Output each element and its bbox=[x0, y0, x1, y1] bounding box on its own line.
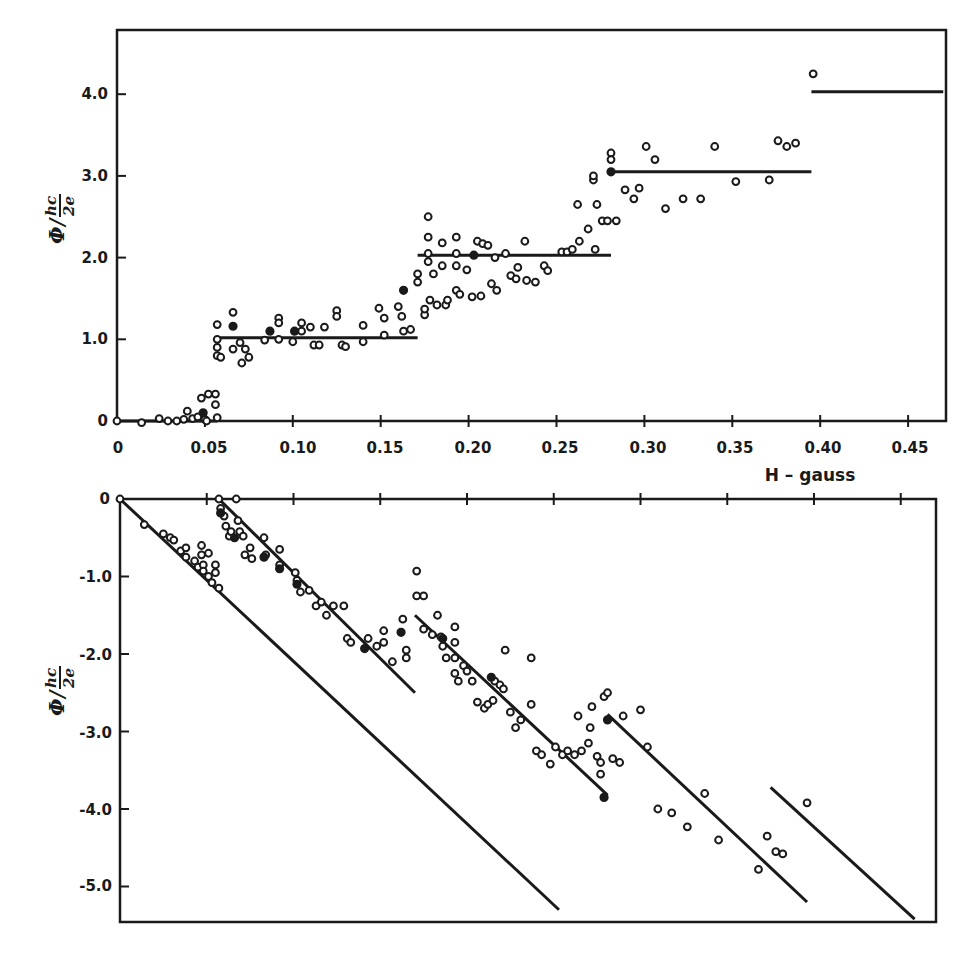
filled-data-point bbox=[397, 629, 404, 636]
open-data-point bbox=[453, 234, 460, 241]
open-data-point bbox=[711, 143, 718, 150]
open-data-point bbox=[564, 747, 571, 754]
open-data-point bbox=[514, 264, 521, 271]
open-data-point bbox=[292, 569, 299, 576]
filled-data-point bbox=[439, 635, 446, 642]
fraction-numerator: hc bbox=[42, 196, 60, 216]
open-data-point bbox=[575, 713, 582, 720]
open-data-point bbox=[585, 226, 592, 233]
open-data-point bbox=[365, 635, 372, 642]
open-data-point bbox=[544, 267, 551, 274]
open-data-point bbox=[810, 70, 817, 77]
open-data-point bbox=[214, 336, 221, 343]
open-data-point bbox=[792, 140, 799, 147]
open-data-point bbox=[492, 254, 499, 261]
open-data-point bbox=[247, 544, 254, 551]
open-data-point bbox=[413, 568, 420, 575]
open-data-point bbox=[237, 339, 244, 346]
x-tick-label: 0.40 bbox=[804, 439, 841, 457]
open-data-point bbox=[425, 234, 432, 241]
x-tick-label: 0.05 bbox=[190, 439, 227, 457]
open-data-point bbox=[340, 603, 347, 610]
y-tick-label: -4.0 bbox=[79, 801, 112, 819]
open-data-point bbox=[170, 537, 177, 544]
filled-data-point bbox=[276, 565, 283, 572]
x-axis-title: H – gauss bbox=[765, 465, 856, 485]
open-data-point bbox=[217, 354, 224, 361]
fit-line bbox=[771, 787, 915, 919]
open-data-point bbox=[165, 418, 172, 425]
open-data-point bbox=[680, 195, 687, 202]
y-tick-label: 0 bbox=[100, 490, 110, 508]
open-data-point bbox=[395, 303, 402, 310]
open-data-point bbox=[275, 320, 282, 327]
open-data-point bbox=[205, 550, 212, 557]
open-data-point bbox=[715, 837, 722, 844]
open-data-point bbox=[585, 740, 592, 747]
open-data-point bbox=[609, 755, 616, 762]
filled-data-point bbox=[488, 674, 495, 681]
open-data-point bbox=[198, 395, 205, 402]
open-data-point bbox=[214, 414, 221, 421]
open-data-point bbox=[261, 337, 268, 344]
filled-data-point bbox=[470, 252, 477, 259]
top-y-axis-title: Φ / hc 2e bbox=[42, 194, 78, 244]
open-data-point bbox=[318, 599, 325, 606]
open-data-point bbox=[380, 639, 387, 646]
open-data-point bbox=[571, 751, 578, 758]
open-data-point bbox=[400, 328, 407, 335]
bottom-data-points bbox=[117, 496, 811, 873]
open-data-point bbox=[230, 309, 237, 316]
open-data-point bbox=[616, 759, 623, 766]
open-data-point bbox=[532, 279, 539, 286]
open-data-point bbox=[589, 703, 596, 710]
open-data-point bbox=[307, 324, 314, 331]
open-data-point bbox=[212, 391, 219, 398]
open-data-point bbox=[215, 585, 222, 592]
open-data-point bbox=[421, 306, 428, 313]
open-data-point bbox=[439, 643, 446, 650]
open-data-point bbox=[360, 322, 367, 329]
open-data-point bbox=[455, 678, 462, 685]
top-plot-flux-vs-field: Φ / hc 2e bbox=[42, 30, 946, 427]
open-data-point bbox=[275, 336, 282, 343]
open-data-point bbox=[399, 616, 406, 623]
open-data-point bbox=[141, 521, 148, 528]
open-data-point bbox=[469, 678, 476, 685]
open-data-point bbox=[521, 238, 528, 245]
open-data-point bbox=[608, 156, 615, 163]
open-data-point bbox=[323, 612, 330, 619]
filled-data-point bbox=[293, 581, 300, 588]
open-data-point bbox=[425, 213, 432, 220]
open-data-point bbox=[444, 297, 451, 304]
flux-quantization-figure: Φ / hc 2e 0 0.05 0.10 0.15 0.20 0.25 0.3… bbox=[0, 0, 975, 955]
open-data-point bbox=[604, 217, 611, 224]
open-data-point bbox=[528, 654, 535, 661]
open-data-point bbox=[298, 328, 305, 335]
y-tick-label: 4.0 bbox=[81, 85, 108, 103]
slash: / bbox=[45, 217, 69, 228]
open-data-point bbox=[443, 654, 450, 661]
open-data-point bbox=[425, 250, 432, 257]
fit-line bbox=[608, 714, 808, 902]
x-tick-label: 0.45 bbox=[891, 439, 928, 457]
open-data-point bbox=[453, 250, 460, 257]
open-data-point bbox=[381, 315, 388, 322]
top-y-tick-labels: 0 1.0 2.0 3.0 4.0 bbox=[81, 85, 108, 430]
slash: / bbox=[45, 689, 69, 700]
bottom-plot-frame bbox=[120, 499, 936, 922]
x-tick-label: 0.30 bbox=[629, 439, 666, 457]
open-data-point bbox=[464, 668, 471, 675]
open-data-point bbox=[420, 626, 427, 633]
open-data-point bbox=[138, 419, 145, 426]
open-data-point bbox=[434, 302, 441, 309]
filled-data-point bbox=[600, 794, 607, 801]
open-data-point bbox=[183, 544, 190, 551]
phi-symbol: Φ bbox=[45, 226, 69, 244]
x-tick-label: 0.25 bbox=[541, 439, 578, 457]
open-data-point bbox=[594, 201, 601, 208]
open-data-point bbox=[342, 343, 349, 350]
y-tick-label: -2.0 bbox=[79, 646, 112, 664]
open-data-point bbox=[212, 569, 219, 576]
open-data-point bbox=[597, 759, 604, 766]
